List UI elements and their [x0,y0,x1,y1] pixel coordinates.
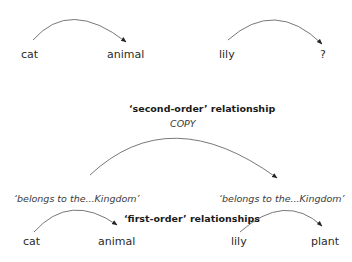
right-relation-label: ‘belongs to the...Kingdom’ [219,194,345,204]
top-left-source: cat [21,49,38,60]
bottom-left-arrow [34,210,117,232]
second-order-heading: ‘second-order’ relationship [129,104,275,114]
copy-label: COPY [170,119,196,129]
first-order-heading: ‘first-order’ relationships [124,214,260,224]
bottom-left-source: cat [23,236,40,247]
top-right-source: lily [219,49,235,60]
top-left-target: animal [107,49,144,60]
top-right-target: ? [320,49,326,60]
bottom-right-target: plant [311,236,339,247]
bottom-right-source: lily [231,236,247,247]
left-relation-label: ‘belongs to the...Kingdom’ [14,194,140,204]
bottom-left-target: animal [98,236,135,247]
top-right-arrow [228,20,322,44]
copy-arrow [90,138,277,178]
top-left-arrow [33,19,126,42]
